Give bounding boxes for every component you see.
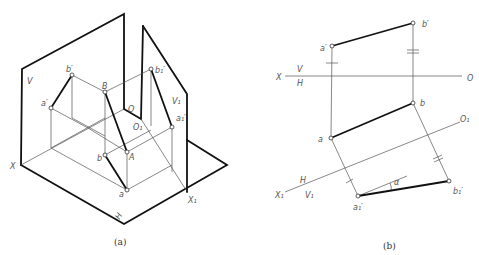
label-b: b — [97, 154, 102, 163]
label-b-prime: b′ — [66, 65, 73, 74]
label-X1: X₁ — [187, 196, 197, 205]
projection-diagram: V X H V₁ X₁ O O₁ b′ a′ B b A a b₁′ a₁′ (… — [0, 0, 479, 255]
point-b — [411, 101, 415, 105]
x1-o1-axis — [285, 122, 460, 192]
label-b1-prime: b₁′ — [453, 187, 463, 196]
label-A: A — [128, 153, 134, 162]
caption-a: (a) — [114, 237, 126, 247]
label-V1: V₁ — [305, 191, 314, 200]
segment-a1-b1 — [151, 69, 172, 127]
label-b-prime: b′ — [422, 20, 429, 29]
point-b — [103, 153, 107, 157]
label-a-prime: a′ — [41, 99, 48, 108]
h-plane-outline — [21, 140, 227, 224]
segment-ab — [331, 103, 413, 138]
label-O1: O₁ — [460, 115, 470, 124]
label-X: X — [9, 162, 16, 171]
point-b1-prime — [149, 67, 153, 71]
point-a1-prime — [170, 125, 174, 129]
proj-line — [127, 165, 172, 190]
point-b1-prime — [447, 179, 451, 183]
point-a — [329, 136, 333, 140]
proj-link-b1 — [413, 103, 449, 181]
label-H: H — [297, 79, 303, 88]
proj-line — [51, 108, 88, 128]
point-a1-prime — [356, 194, 360, 198]
label-a: a — [119, 190, 124, 199]
x1-axis-line — [141, 119, 186, 190]
v-plane-outline — [21, 14, 124, 165]
segment-a-prime-b-prime — [51, 75, 72, 108]
label-a1-prime: a₁′ — [353, 203, 363, 212]
segment-a1-b1 — [358, 181, 449, 196]
proj-link-a1 — [331, 138, 358, 196]
figure-b-orthographic: X V H O a′ b′ b a O₁ X₁ H V₁ a₁′ b₁′ α (… — [274, 20, 473, 251]
proj-line — [51, 148, 127, 190]
proj-line — [105, 69, 151, 92]
label-V: V — [297, 65, 303, 74]
proj-line — [72, 75, 105, 92]
label-X: X — [275, 73, 282, 82]
point-b-prime — [411, 21, 415, 25]
caption-b: (b) — [383, 241, 396, 251]
label-O1: O₁ — [133, 123, 143, 132]
label-b1-prime: b₁′ — [155, 66, 165, 75]
label-a1-prime: a₁′ — [176, 114, 186, 123]
angle-reference-line — [358, 176, 407, 196]
label-X1: X₁ — [274, 191, 284, 200]
point-a — [125, 188, 129, 192]
label-b: b — [420, 99, 425, 108]
label-V: V — [27, 77, 33, 86]
label-H-lower: H — [300, 176, 306, 185]
label-alpha: α — [394, 178, 400, 187]
figure-a-pictorial: V X H V₁ X₁ O O₁ b′ a′ B b A a b₁′ a₁′ (… — [9, 14, 227, 247]
segment-a-prime-b-prime — [332, 23, 413, 46]
point-a-prime — [49, 106, 53, 110]
label-O: O — [467, 74, 473, 83]
label-V1: V₁ — [172, 97, 181, 106]
segment-ab — [105, 155, 127, 190]
point-a-prime — [330, 44, 334, 48]
label-a-prime: a′ — [320, 44, 327, 53]
x-axis-line — [21, 109, 124, 165]
label-B: B — [102, 82, 108, 91]
proj-line — [88, 128, 127, 152]
label-a: a — [318, 135, 323, 144]
proj-link-a — [331, 46, 332, 138]
label-O: O — [128, 105, 134, 114]
